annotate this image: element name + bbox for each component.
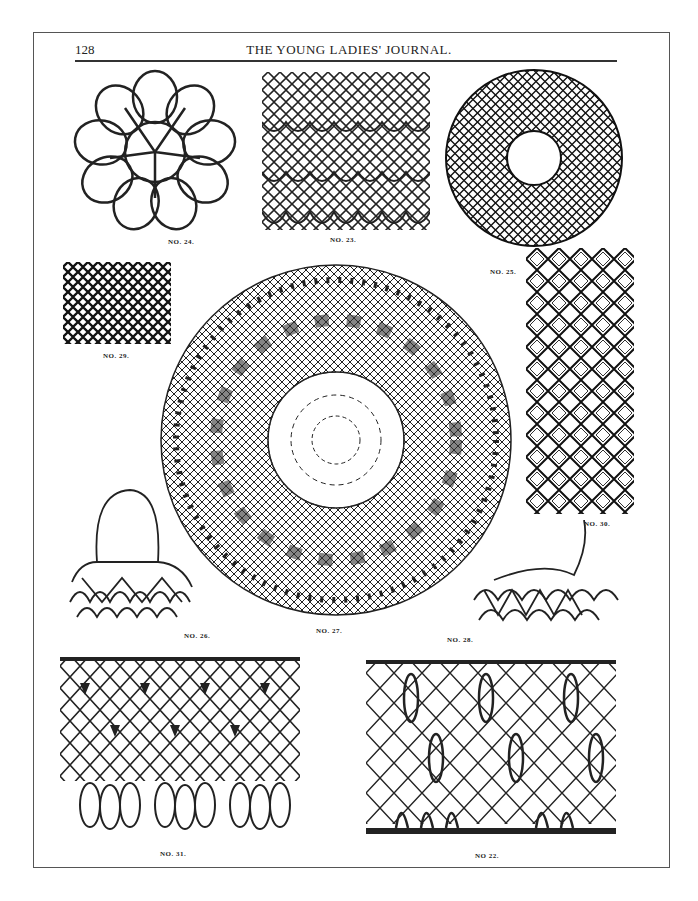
caption-24: NO. 24. — [168, 238, 194, 246]
caption-28: NO. 28. — [447, 636, 473, 644]
header-rule — [75, 60, 617, 62]
figure-31-tasselled-fringe — [60, 655, 300, 835]
figure-28-loop-edging — [464, 520, 634, 645]
figure-30-mesh-panel — [526, 248, 634, 514]
caption-29: NO. 29. — [103, 352, 129, 360]
figure-23-mesh-border — [262, 72, 430, 230]
caption-23: NO. 23. — [330, 236, 356, 244]
caption-27: NO. 27. — [316, 627, 342, 635]
figure-24-flower-netting — [65, 68, 245, 236]
journal-title: THE YOUNG LADIES' JOURNAL. — [0, 42, 698, 58]
figure-22-looped-fringe — [366, 658, 616, 843]
caption-22: NO 22. — [475, 852, 499, 860]
caption-26: NO. 26. — [184, 632, 210, 640]
figure-26-loop-edging — [62, 482, 202, 632]
caption-31: NO. 31. — [160, 850, 186, 858]
figure-25-rosette — [437, 68, 631, 248]
